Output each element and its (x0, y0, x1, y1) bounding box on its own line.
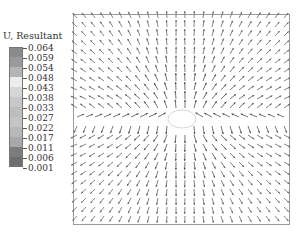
legend-value: 0.043 (23, 83, 54, 93)
legend-swatch (9, 87, 23, 97)
legend-swatch (9, 117, 23, 127)
legend-value: 0.033 (23, 103, 54, 113)
legend-swatch (9, 157, 23, 167)
legend-value: 0.001 (23, 163, 54, 173)
legend-swatch (9, 47, 23, 57)
legend-value: 0.022 (23, 123, 54, 133)
legend-swatch (9, 57, 23, 67)
central-hole (168, 110, 196, 128)
legend-swatch (9, 107, 23, 117)
legend-value: 0.017 (23, 133, 54, 143)
legend-swatch (9, 97, 23, 107)
legend-value: 0.054 (23, 63, 54, 73)
legend-value: 0.011 (23, 143, 54, 153)
legend-value: 0.048 (23, 73, 54, 83)
vector-field-svg (73, 14, 290, 225)
legend-value: 0.038 (23, 93, 54, 103)
legend-swatch (9, 137, 23, 147)
legend-swatch (9, 77, 23, 87)
legend-value: 0.027 (23, 113, 54, 123)
legend-value: 0.059 (23, 53, 54, 63)
legend-swatch (9, 67, 23, 77)
legend-swatch (9, 127, 23, 137)
legend-colorbar (9, 47, 23, 167)
legend-swatch (9, 147, 23, 157)
legend-value: 0.064 (23, 43, 54, 53)
legend-title: U, Resultant (3, 30, 62, 41)
vector-field-plot (73, 14, 290, 225)
legend-value: 0.006 (23, 153, 54, 163)
legend-labels: 0.0640.0590.0540.0480.0430.0380.0330.027… (23, 43, 54, 173)
